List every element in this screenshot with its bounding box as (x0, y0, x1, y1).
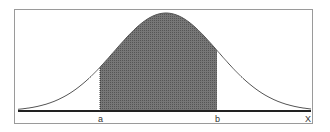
shaded-area-a-to-b (100, 13, 217, 111)
label-b: b (215, 115, 220, 124)
label-a: a (98, 115, 103, 124)
normal-curve-diagram (0, 0, 330, 132)
label-x-axis: X (305, 115, 311, 124)
